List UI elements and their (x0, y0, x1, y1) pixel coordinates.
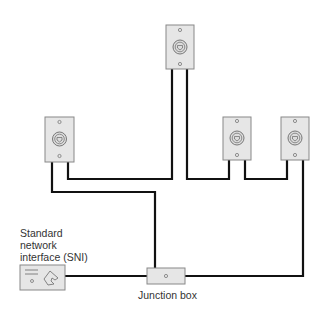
wall-jack-right-1 (223, 117, 251, 160)
junction-box-label: Junction box (138, 289, 197, 301)
wall-jack-left (45, 117, 74, 162)
wire-left-jack-to-top-jack (68, 69, 172, 179)
sni-label-line-3: interface (SNI) (20, 251, 120, 263)
wiring-diagram (0, 0, 330, 317)
sni-label-line-2: network (20, 239, 120, 251)
wall-jack-top (166, 25, 194, 69)
wall-jack-right-2 (281, 117, 309, 160)
wire-right-jack-1-to-right-jack-2 (245, 160, 287, 179)
sni-label: Standard network interface (SNI) (20, 227, 120, 263)
sni-label-line-1: Standard (20, 227, 120, 239)
sni-box (20, 265, 65, 290)
junction-box (147, 268, 185, 284)
